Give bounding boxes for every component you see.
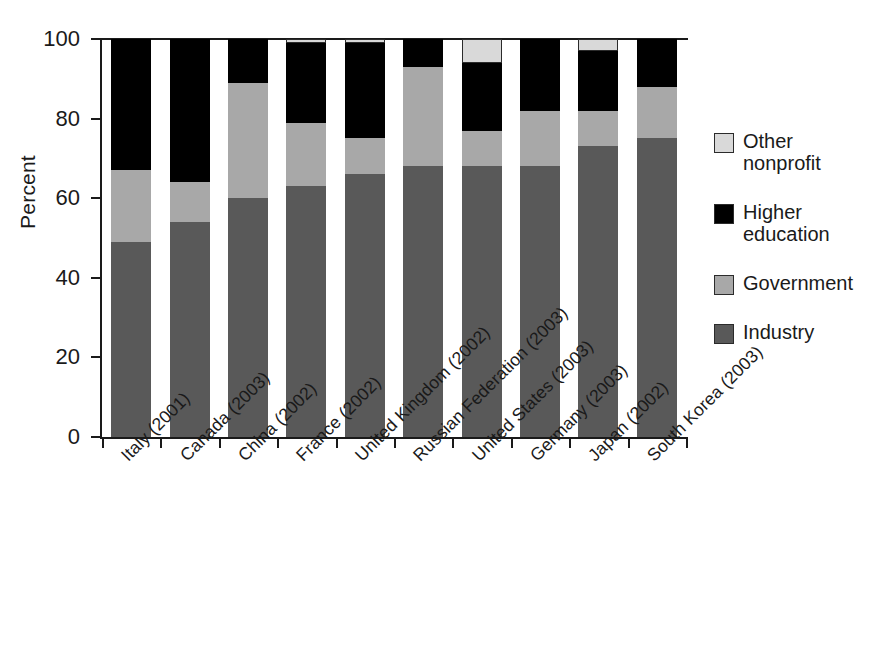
- bar-segment-higher-education: [520, 39, 560, 111]
- legend-swatch-higher-education: [714, 204, 734, 224]
- y-tick-mark: [91, 38, 100, 40]
- bar-segment-higher-education: [578, 51, 618, 111]
- bar-segment-government: [170, 182, 210, 222]
- x-tick-mark: [569, 439, 571, 448]
- legend-swatch-other-nonprofit: [714, 133, 734, 153]
- bar-segment-higher-education: [345, 43, 385, 139]
- legend-swatch-industry: [714, 324, 734, 344]
- stacked-bar-chart: Percent 020406080100 Italy (2001)Canada …: [0, 0, 885, 659]
- x-tick-mark: [219, 439, 221, 448]
- bar: [286, 39, 326, 437]
- bar-segment-government: [228, 83, 268, 198]
- legend-swatch-government: [714, 275, 734, 295]
- legend-item-other-nonprofit: Other nonprofit: [714, 130, 884, 175]
- legend-item-industry: Industry: [714, 321, 884, 344]
- legend-label-other-nonprofit: Other nonprofit: [743, 130, 821, 175]
- bar-segment-government: [637, 87, 677, 139]
- bar-segment-government: [578, 111, 618, 147]
- bar-segment-government: [403, 67, 443, 167]
- x-tick-mark: [277, 439, 279, 448]
- bar-segment-higher-education: [228, 39, 268, 83]
- bar-segment-higher-education: [111, 39, 151, 170]
- bar-segment-government: [462, 131, 502, 167]
- x-tick-mark: [394, 439, 396, 448]
- y-tick-mark: [91, 118, 100, 120]
- legend-item-higher-education: Higher education: [714, 201, 884, 246]
- bar-segment-higher-education: [286, 43, 326, 123]
- bar-segment-government: [345, 138, 385, 174]
- legend-label-industry: Industry: [743, 321, 814, 343]
- y-tick-mark: [91, 277, 100, 279]
- x-tick-mark: [336, 439, 338, 448]
- bar-segment-higher-education: [170, 39, 210, 182]
- x-tick-mark: [511, 439, 513, 448]
- bar: [170, 39, 210, 437]
- x-tick-mark: [686, 439, 688, 448]
- y-tick-label: 40: [20, 267, 80, 289]
- y-tick-label: 80: [20, 108, 80, 130]
- legend-item-government: Government: [714, 272, 884, 295]
- x-tick-mark: [160, 439, 162, 448]
- legend-label-higher-education: Higher education: [743, 201, 830, 246]
- legend-label-government: Government: [743, 272, 853, 294]
- bar-segment-industry: [111, 242, 151, 437]
- y-tick-label: 0: [20, 426, 80, 448]
- bar-segment-other-nonprofit: [578, 39, 618, 51]
- x-tick-mark: [102, 439, 104, 448]
- y-tick-mark: [91, 197, 100, 199]
- bar-segment-government: [520, 111, 560, 167]
- x-tick-mark: [452, 439, 454, 448]
- chart-legend: Other nonprofitHigher educationGovernmen…: [714, 130, 884, 370]
- y-tick-label: 60: [20, 187, 80, 209]
- bar-segment-higher-education: [403, 39, 443, 67]
- bar-segment-higher-education: [637, 39, 677, 87]
- y-tick-label: 20: [20, 346, 80, 368]
- bar-segment-other-nonprofit: [462, 39, 502, 63]
- y-tick-label: 100: [20, 28, 80, 50]
- bar-segment-higher-education: [462, 63, 502, 131]
- x-tick-mark: [628, 439, 630, 448]
- bar: [111, 39, 151, 437]
- y-tick-mark: [91, 356, 100, 358]
- bar-segment-government: [111, 170, 151, 242]
- y-tick-mark: [91, 436, 100, 438]
- bar-segment-government: [286, 123, 326, 187]
